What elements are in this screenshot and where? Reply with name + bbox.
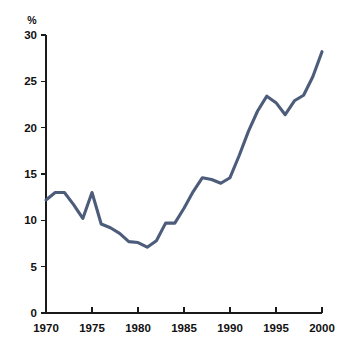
series-group [46,52,322,248]
x-tick-label: 1995 [263,322,289,334]
line-chart: 051015202530 197019751980198519901995200… [0,0,350,356]
x-tick-label: 1985 [171,322,197,334]
x-tick-label: 2000 [309,322,335,334]
chart-canvas: 051015202530 197019751980198519901995200… [0,0,350,356]
axis-group [46,35,322,313]
y-tick-label: 5 [31,261,38,273]
y-tick-label: 15 [24,168,37,180]
y-axis-unit-label: % [27,14,37,26]
y-tick-group: 051015202530 [24,29,46,319]
x-tick-group: 1970197519801985199019952000 [33,307,335,334]
y-tick-label: 0 [31,307,37,319]
y-tick-label: 10 [24,214,37,226]
y-tick-label: 25 [24,75,37,87]
x-tick-label: 1990 [217,322,243,334]
x-tick-label: 1975 [79,322,105,334]
y-tick-label: 20 [24,122,37,134]
y-tick-label: 30 [24,29,37,41]
x-tick-label: 1980 [125,322,151,334]
x-tick-label: 1970 [33,322,59,334]
series-line [46,52,322,248]
